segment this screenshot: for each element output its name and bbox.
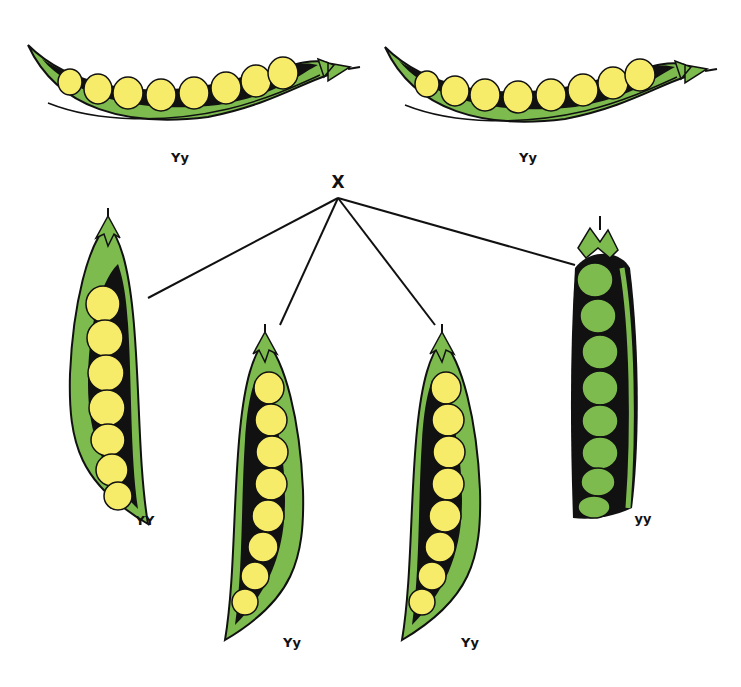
parent-pod-left <box>28 45 360 120</box>
offspring-2-genotype-label: Yy <box>283 635 301 650</box>
offspring-pod-yy <box>571 216 638 519</box>
offspring-pod-Yy-2 <box>402 324 480 640</box>
offspring-4-genotype-label: yy <box>635 511 652 526</box>
offspring-3-genotype-label: Yy <box>461 635 479 650</box>
offspring-pod-Yy-1 <box>225 324 303 640</box>
offspring-1-genotype-label: YY <box>136 513 155 528</box>
cross-lines <box>148 198 575 325</box>
diagram-canvas <box>0 0 741 687</box>
pea-cross-diagram: Yy Yy X YY Yy Yy yy <box>0 0 741 687</box>
parent-right-genotype-label: Yy <box>519 150 537 165</box>
parent-left-genotype-label: Yy <box>171 150 189 165</box>
offspring-pod-YY <box>70 208 148 524</box>
cross-symbol: X <box>331 172 344 192</box>
parent-pod-right <box>385 47 717 122</box>
